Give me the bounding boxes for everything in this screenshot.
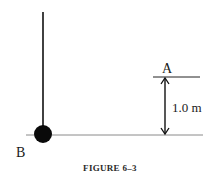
label-b: B xyxy=(16,145,25,160)
label-a: A xyxy=(162,61,173,76)
height-arrow xyxy=(161,78,169,134)
figure-6-3: A 1.0 m B FIGURE 6–3 xyxy=(0,0,221,174)
pendulum-diagram: A 1.0 m B FIGURE 6–3 xyxy=(0,0,221,174)
figure-caption: FIGURE 6–3 xyxy=(83,163,137,173)
label-height: 1.0 m xyxy=(172,100,202,115)
pendulum-bob xyxy=(34,125,52,143)
